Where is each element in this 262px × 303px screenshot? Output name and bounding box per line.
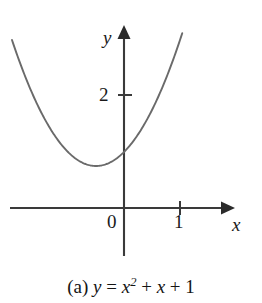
x-axis-label: x: [232, 215, 240, 234]
figure-caption: (a) y = x2 + x + 1: [0, 276, 262, 298]
parabola-figure: y x 2 0 1 (a) y = x2 + x + 1: [0, 0, 262, 303]
arrow-right-icon: [221, 202, 235, 215]
caption-term-x-squared-base: x: [122, 276, 130, 297]
plot-area: [0, 0, 262, 275]
caption-plus-sign-1: +: [141, 276, 152, 297]
caption-plus-sign-2: +: [170, 276, 181, 297]
y-axis-label: y: [103, 28, 111, 47]
parabola-curve: [12, 33, 182, 166]
caption-constant-term: 1: [185, 276, 195, 297]
caption-prefix: (a): [67, 276, 88, 297]
y-tick-label-2: 2: [99, 85, 109, 104]
caption-equals-sign: =: [106, 276, 117, 297]
arrow-up-icon: [118, 25, 131, 39]
origin-label: 0: [107, 212, 117, 231]
caption-term-x: x: [157, 276, 165, 297]
x-tick-label-1: 1: [174, 212, 184, 231]
